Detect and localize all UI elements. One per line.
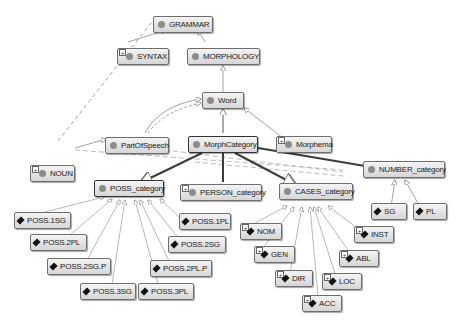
node-cases-category[interactable]: CASES_category <box>279 183 353 200</box>
node-label: NOM <box>257 227 275 236</box>
node-sg[interactable]: SG <box>371 203 407 220</box>
individual-icon <box>35 239 39 247</box>
class-icon <box>193 141 200 148</box>
individual-icon <box>173 241 177 249</box>
individual-icon <box>284 275 288 283</box>
individual-icon <box>52 263 56 271</box>
individual-icon <box>184 218 188 226</box>
individual-icon <box>348 255 352 263</box>
node-morph-category[interactable]: MorphCategory <box>188 136 258 153</box>
class-icon <box>126 53 133 60</box>
node-number-category[interactable]: NUMBER_category <box>363 161 445 178</box>
node-label: POSS.2PL.P <box>163 264 207 273</box>
node-label: POSS.1PL <box>192 217 229 226</box>
node-part-of-speech[interactable]: PartOfSpeech <box>105 137 169 154</box>
class-icon <box>192 53 199 60</box>
node-label: ABL <box>356 254 371 263</box>
class-icon <box>189 189 196 196</box>
node-loc[interactable]: + LOC <box>322 273 362 290</box>
individual-icon <box>331 278 335 286</box>
node-inst[interactable]: + INST <box>354 226 394 243</box>
node-pl[interactable]: PL <box>413 203 447 220</box>
expand-icon[interactable]: + <box>119 49 126 56</box>
node-poss-1pl[interactable]: POSS.1PL <box>179 213 231 230</box>
node-label: GRAMMAR <box>169 20 209 29</box>
node-label: MorphCategory <box>204 140 257 149</box>
node-acc[interactable]: + ACC <box>302 295 342 312</box>
class-icon <box>285 141 292 148</box>
node-poss-2pl-p[interactable]: POSS.2PL.P <box>150 260 212 277</box>
node-poss-category[interactable]: POSS_category <box>94 180 164 197</box>
expand-icon[interactable]: + <box>32 166 39 173</box>
individual-icon <box>19 217 23 225</box>
node-poss-2sg-p[interactable]: POSS.2SG.P <box>47 258 111 275</box>
node-abl[interactable]: + ABL <box>339 250 379 267</box>
node-label: PL <box>426 207 435 216</box>
individual-icon <box>85 288 89 296</box>
node-label: POSS.3PL <box>151 287 188 296</box>
node-label: POSS.3SG <box>93 287 132 296</box>
class-icon <box>99 185 106 192</box>
class-icon <box>110 142 117 149</box>
node-label: POSS.1SG <box>27 216 66 225</box>
node-label: SYNTAX <box>137 52 167 61</box>
node-label: PERSON_category <box>200 188 266 197</box>
node-poss-3sg[interactable]: POSS.3SG <box>80 283 136 300</box>
node-label: GEN <box>271 250 288 259</box>
node-poss-1sg[interactable]: POSS.1SG <box>14 212 71 229</box>
node-label: CASES_category <box>295 187 354 196</box>
node-label: POSS.2SG <box>181 240 220 249</box>
node-poss-3pl[interactable]: POSS.3PL <box>138 283 194 300</box>
individual-icon <box>418 208 422 216</box>
node-label: POSS.2SG.P <box>60 262 106 271</box>
node-nom[interactable]: + NOM <box>240 223 282 240</box>
node-label: PartOfSpeech <box>121 141 169 150</box>
node-syntax[interactable]: + SYNTAX <box>117 48 169 65</box>
node-label: NOUN <box>50 169 73 178</box>
node-word[interactable]: Word <box>202 92 244 109</box>
individual-icon <box>376 208 380 216</box>
node-dir[interactable]: + DIR <box>275 270 313 287</box>
individual-icon <box>155 265 159 273</box>
individual-icon <box>143 288 147 296</box>
node-morphology[interactable]: MORPHOLOGY <box>187 48 260 65</box>
node-label: MORPHOLOGY <box>203 52 259 61</box>
class-icon <box>368 166 375 173</box>
node-poss-2sg[interactable]: POSS.2SG <box>168 236 226 253</box>
node-person-category[interactable]: + PERSON_category <box>180 184 262 201</box>
node-noun[interactable]: + NOUN <box>30 165 75 182</box>
node-gen[interactable]: + GEN <box>254 246 295 263</box>
node-morphema[interactable]: + Morphema <box>276 136 332 153</box>
node-label: Word <box>218 96 236 105</box>
node-grammar[interactable]: GRAMMAR <box>153 16 213 33</box>
node-poss-2pl[interactable]: POSS.2PL <box>30 234 87 251</box>
class-icon <box>39 170 46 177</box>
individual-icon <box>311 300 315 308</box>
expand-icon[interactable]: + <box>182 185 189 192</box>
individual-icon <box>263 251 267 259</box>
class-icon <box>207 97 214 104</box>
node-label: LOC <box>339 277 355 286</box>
node-label: NUMBER_category <box>379 165 446 174</box>
class-icon <box>158 21 165 28</box>
node-label: INST <box>371 230 388 239</box>
class-icon <box>284 188 291 195</box>
node-label: ACC <box>319 299 335 308</box>
individual-icon <box>363 231 367 239</box>
node-label: POSS_category <box>110 184 165 193</box>
node-label: DIR <box>292 274 305 283</box>
node-label: SG <box>384 207 395 216</box>
node-label: POSS.2PL <box>43 238 80 247</box>
expand-icon[interactable]: + <box>278 137 285 144</box>
node-label: Morphema <box>296 140 333 149</box>
individual-icon <box>249 228 253 236</box>
